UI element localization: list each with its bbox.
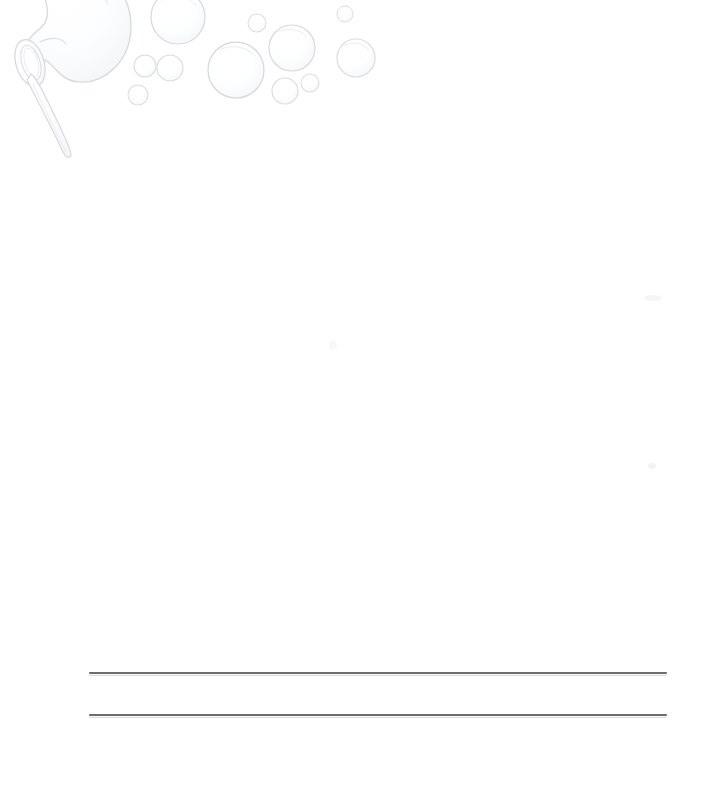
writing-line-2[interactable]: [90, 715, 666, 717]
bubble-cluster: [128, 0, 375, 105]
wand-and-forming-bubble-group: [10, 0, 131, 157]
wand-handle-highlight: [33, 84, 66, 152]
bubble-11: [337, 39, 375, 77]
bubble-9: [301, 74, 319, 92]
bubble-2: [134, 55, 156, 77]
stationery-page: [0, 0, 706, 790]
bubble-10: [337, 6, 353, 22]
bubble-8: [272, 78, 298, 104]
bubble-1: [151, 0, 205, 44]
bubble-4: [128, 85, 148, 105]
bubble-6: [208, 42, 264, 98]
bubble-3: [157, 55, 183, 81]
wand-handle: [27, 74, 71, 157]
bubble-5: [248, 14, 266, 32]
writing-line-1[interactable]: [90, 673, 666, 675]
blank-writing-area[interactable]: [90, 200, 666, 640]
bubble-wand-illustration: [0, 0, 460, 200]
bubble-7: [269, 25, 315, 71]
